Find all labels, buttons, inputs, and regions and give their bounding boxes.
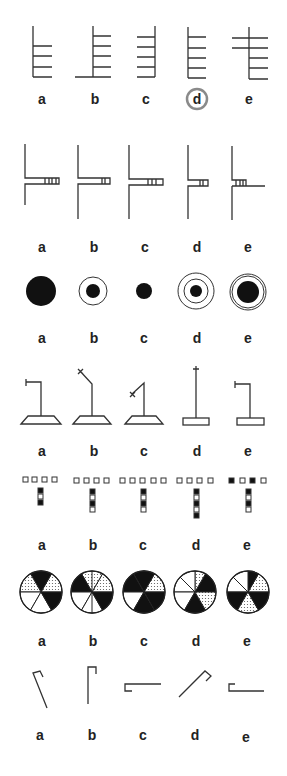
figure-canvas: a b c d e a b c d e: [0, 0, 287, 776]
option-label[interactable]: b: [91, 91, 100, 107]
option-e-ringed-large-circle: [230, 274, 266, 310]
option-e-pie: [227, 571, 269, 613]
option-label[interactable]: c: [140, 443, 148, 459]
option-c-ladder-figure: [137, 26, 155, 77]
option-label[interactable]: c: [139, 537, 147, 553]
option-label[interactable]: d: [193, 443, 202, 459]
option-a-hook-figure: [33, 671, 47, 708]
option-label[interactable]: a: [38, 633, 46, 649]
option-label[interactable]: b: [88, 727, 97, 743]
option-label[interactable]: d: [193, 330, 202, 346]
option-c-branch-figure: [129, 145, 163, 219]
option-a-pie: [20, 571, 62, 613]
option-label[interactable]: b: [90, 443, 99, 459]
option-label[interactable]: a: [38, 91, 46, 107]
option-label[interactable]: c: [140, 633, 148, 649]
option-c-small-circle: [136, 283, 152, 299]
option-label[interactable]: c: [142, 91, 150, 107]
option-d-pie: [174, 571, 216, 613]
option-label[interactable]: b: [89, 537, 98, 553]
row-2-branches: a b c d e: [25, 144, 265, 255]
option-label[interactable]: e: [244, 330, 252, 346]
option-label[interactable]: e: [244, 443, 252, 459]
option-e-hook-figure: [229, 684, 264, 691]
row-5-squares: [23, 477, 266, 518]
option-label[interactable]: e: [245, 91, 253, 107]
row-6-pies: [20, 571, 269, 613]
option-label[interactable]: b: [90, 239, 99, 255]
option-c-square-pattern: [120, 478, 166, 512]
option-label[interactable]: e: [244, 239, 252, 255]
option-a-stand-figure: [21, 379, 61, 424]
option-label[interactable]: d: [192, 537, 201, 553]
option-c-pie: [123, 571, 165, 613]
option-d-hook-figure: [179, 671, 211, 697]
row-4-stands: a b c d e: [21, 366, 264, 459]
option-c-stand-figure: [125, 383, 163, 424]
row-3-circles: a b c d e: [26, 273, 266, 346]
option-label[interactable]: c: [139, 727, 147, 743]
option-b-square-pattern: [74, 478, 109, 512]
option-d-square-pattern: [177, 478, 213, 518]
row-1-ladders: a b c d e: [33, 26, 268, 109]
option-b-hook-figure: [88, 667, 96, 704]
option-label-selected[interactable]: d: [193, 91, 202, 107]
option-label[interactable]: c: [141, 239, 149, 255]
option-e-ladder-figure: [232, 27, 268, 79]
row-7-hooks: a b c d e: [33, 667, 264, 745]
option-a-branch-figure: [25, 144, 59, 205]
option-label[interactable]: b: [90, 330, 99, 346]
option-e-branch-figure: [232, 146, 265, 220]
option-label[interactable]: d: [191, 727, 200, 743]
option-label[interactable]: e: [242, 729, 250, 745]
option-a-ladder-figure: [33, 26, 52, 77]
option-label[interactable]: a: [38, 443, 46, 459]
row-5-labels: a b c d e: [38, 537, 251, 553]
option-label[interactable]: a: [38, 330, 46, 346]
option-b-ladder-figure: [75, 26, 111, 77]
option-c-hook-figure: [125, 684, 161, 691]
option-label[interactable]: c: [140, 330, 148, 346]
option-label[interactable]: e: [243, 537, 251, 553]
option-b-stand-figure: [73, 369, 111, 424]
option-d-branch-figure: [188, 145, 208, 219]
option-label[interactable]: a: [36, 727, 44, 743]
option-a-square-pattern: [23, 477, 57, 505]
option-label[interactable]: a: [38, 239, 46, 255]
option-b-branch-figure: [78, 145, 110, 219]
option-e-stand-figure: [235, 381, 264, 425]
option-label[interactable]: b: [89, 633, 98, 649]
option-label[interactable]: a: [38, 537, 46, 553]
option-d-stand-figure: [183, 366, 209, 425]
option-e-square-pattern: [229, 478, 266, 512]
option-b-ringed-circle: [79, 277, 107, 305]
option-b-pie: [71, 571, 113, 613]
option-label[interactable]: e: [243, 633, 251, 649]
option-a-filled-circle: [26, 276, 56, 306]
option-label[interactable]: d: [192, 633, 201, 649]
option-label[interactable]: d: [193, 239, 202, 255]
option-d-double-ringed-circle: [178, 273, 214, 309]
row-6-labels: a b c d e: [38, 633, 251, 649]
option-d-ladder-figure: [188, 27, 206, 78]
